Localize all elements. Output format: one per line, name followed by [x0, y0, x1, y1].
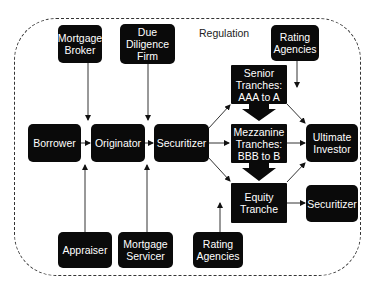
node-ultimate-investor: Ultimate Investor [306, 124, 358, 162]
regulation-label: Regulation [199, 27, 249, 39]
node-mortgage-broker: Mortgage Broker [58, 25, 102, 63]
node-securitizer: Securitizer [154, 124, 209, 162]
node-securitizer-right: Securitizer [306, 185, 358, 222]
node-due-diligence-firm: Due Diligence Firm [120, 24, 175, 64]
node-appraiser: Appraiser [58, 232, 112, 268]
node-mezzanine-tranches: Mezzanine Tranches: BBB to B [231, 124, 287, 163]
node-rating-agencies-bottom: Rating Agencies [193, 232, 243, 268]
node-equity-tranche: Equity Tranche [231, 183, 287, 223]
node-originator: Originator [91, 124, 145, 162]
node-rating-agencies-top: Rating Agencies [271, 25, 319, 61]
node-mortgage-servicer: Mortgage Servicer [118, 232, 173, 268]
node-borrower: Borrower [28, 124, 81, 162]
diagram-canvas: Regulation Mortgage Broker Due Diligence… [0, 0, 377, 286]
node-senior-tranches: Senior Tranches: AAA to A [231, 65, 287, 104]
